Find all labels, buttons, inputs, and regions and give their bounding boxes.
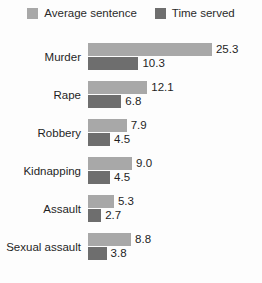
category-label: Rape bbox=[0, 80, 84, 110]
legend-label-average-sentence: Average sentence bbox=[44, 8, 137, 20]
bar-average-sentence: 9.0 bbox=[88, 157, 152, 170]
bar-time-served: 6.8 bbox=[88, 95, 141, 108]
bar-value-label: 6.8 bbox=[125, 96, 141, 108]
bar-time-served: 2.7 bbox=[88, 209, 121, 222]
bar-rect bbox=[88, 171, 110, 184]
bar-group: Kidnapping9.04.5 bbox=[0, 156, 262, 186]
legend-entry-time-served: Time served bbox=[155, 8, 235, 20]
category-label: Murder bbox=[0, 42, 84, 72]
bar-average-sentence: 12.1 bbox=[88, 81, 174, 94]
plot-area: Murder25.310.3Rape12.16.8Robbery7.94.5Ki… bbox=[0, 40, 262, 283]
bar-group: Robbery7.94.5 bbox=[0, 118, 262, 148]
bar-rect bbox=[88, 43, 212, 56]
bar-value-label: 25.3 bbox=[216, 44, 238, 56]
bar-time-served: 3.8 bbox=[88, 247, 127, 260]
category-label: Robbery bbox=[0, 118, 84, 148]
category-label: Kidnapping bbox=[0, 156, 84, 186]
bar-average-sentence: 25.3 bbox=[88, 43, 238, 56]
chart-legend: Average sentence Time served bbox=[0, 8, 262, 20]
bar-rect bbox=[88, 57, 138, 70]
bar-value-label: 2.7 bbox=[105, 210, 121, 222]
legend-swatch-time-served bbox=[155, 8, 166, 19]
bar-time-served: 10.3 bbox=[88, 57, 165, 70]
bar-value-label: 4.5 bbox=[114, 134, 130, 146]
category-label: Assault bbox=[0, 194, 84, 224]
bar-rect bbox=[88, 233, 131, 246]
bar-average-sentence: 8.8 bbox=[88, 233, 151, 246]
legend-swatch-average-sentence bbox=[27, 8, 38, 19]
bar-value-label: 3.8 bbox=[111, 248, 127, 260]
legend-entry-average-sentence: Average sentence bbox=[27, 8, 137, 20]
bar-value-label: 7.9 bbox=[131, 120, 147, 132]
bar-value-label: 5.3 bbox=[118, 196, 134, 208]
bar-rect bbox=[88, 157, 132, 170]
bar-value-label: 12.1 bbox=[151, 82, 173, 94]
bar-value-label: 9.0 bbox=[136, 158, 152, 170]
bar-group: Sexual assault8.83.8 bbox=[0, 232, 262, 262]
bar-rect bbox=[88, 209, 101, 222]
bar-group: Murder25.310.3 bbox=[0, 42, 262, 72]
bar-average-sentence: 5.3 bbox=[88, 195, 134, 208]
bar-rect bbox=[88, 81, 147, 94]
bar-time-served: 4.5 bbox=[88, 171, 130, 184]
bar-value-label: 4.5 bbox=[114, 172, 130, 184]
bar-value-label: 10.3 bbox=[142, 58, 164, 70]
bar-rect bbox=[88, 119, 127, 132]
bar-value-label: 8.8 bbox=[135, 234, 151, 246]
grouped-bar-chart: Average sentence Time served Murder25.31… bbox=[0, 0, 262, 283]
bar-rect bbox=[88, 195, 114, 208]
bar-rect bbox=[88, 95, 121, 108]
bar-rect bbox=[88, 133, 110, 146]
bar-time-served: 4.5 bbox=[88, 133, 130, 146]
legend-label-time-served: Time served bbox=[172, 8, 235, 20]
bar-group: Rape12.16.8 bbox=[0, 80, 262, 110]
bar-group: Assault5.32.7 bbox=[0, 194, 262, 224]
category-label: Sexual assault bbox=[0, 232, 84, 262]
bar-rect bbox=[88, 247, 107, 260]
bar-average-sentence: 7.9 bbox=[88, 119, 147, 132]
